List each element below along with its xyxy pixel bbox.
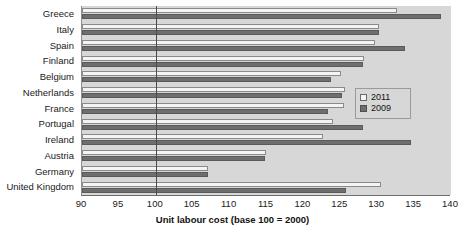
y-axis-label: Belgium	[0, 69, 78, 85]
bar-2009-greece	[82, 14, 441, 19]
bar-group	[82, 22, 451, 38]
x-axis-line	[81, 195, 450, 196]
bar-group	[82, 148, 451, 164]
bar-group	[82, 38, 451, 54]
legend-swatch-icon	[360, 94, 367, 101]
y-axis-label: Greece	[0, 6, 78, 22]
bar-2011-germany	[82, 166, 208, 171]
chart-legend: 20112009	[355, 88, 411, 119]
bar-2011-italy	[82, 24, 379, 29]
bar-2009-united-kingdom	[82, 188, 346, 193]
bar-2009-spain	[82, 46, 405, 51]
x-tick-label: 135	[405, 198, 421, 209]
x-axis-title: Unit labour cost (base 100 = 2000)	[0, 214, 465, 225]
x-tick-label: 120	[294, 198, 310, 209]
bar-2011-finland	[82, 56, 364, 61]
y-axis-label: Netherlands	[0, 85, 78, 101]
y-axis-label: Ireland	[0, 132, 78, 148]
y-axis-label: Italy	[0, 22, 78, 38]
bar-group	[82, 132, 451, 148]
x-tick-label: 140	[442, 198, 458, 209]
x-tick-label: 105	[184, 198, 200, 209]
y-axis-label: Spain	[0, 38, 78, 54]
y-axis-label: Germany	[0, 164, 78, 180]
x-tick-label: 130	[368, 198, 384, 209]
bar-2011-united-kingdom	[82, 182, 381, 187]
bar-2011-france	[82, 103, 344, 108]
y-axis-label: United Kingdom	[0, 179, 78, 195]
bar-2009-germany	[82, 172, 208, 177]
legend-item-label: 2011	[371, 92, 390, 103]
x-tick-label: 115	[258, 198, 273, 209]
bar-group	[82, 6, 451, 22]
bar-2011-greece	[82, 8, 397, 13]
bar-group	[82, 179, 451, 195]
bar-2009-belgium	[82, 77, 331, 82]
y-axis-label: Austria	[0, 148, 78, 164]
x-tick-label: 110	[221, 198, 236, 209]
bar-2009-finland	[82, 62, 363, 67]
legend-swatch-icon	[360, 105, 367, 112]
bar-2009-france	[82, 109, 328, 114]
bar-2009-ireland	[82, 140, 411, 145]
y-axis-label: Portugal	[0, 116, 78, 132]
bar-2009-italy	[82, 30, 379, 35]
x-axis-tick-labels: 9095100105110115120125130135140	[0, 198, 465, 212]
x-tick-label: 125	[331, 198, 347, 209]
bar-2011-netherlands	[82, 87, 345, 92]
legend-item-label: 2009	[371, 103, 391, 114]
unit-labour-cost-chart: GreeceItalySpainFinlandBelgiumNetherland…	[0, 0, 465, 244]
bar-group	[82, 69, 451, 85]
y-axis-label: France	[0, 101, 78, 117]
bar-group	[82, 53, 451, 69]
bar-2011-ireland	[82, 134, 323, 139]
y-axis-category-labels: GreeceItalySpainFinlandBelgiumNetherland…	[0, 6, 78, 195]
y-axis-label: Finland	[0, 53, 78, 69]
legend-item-2009[interactable]: 2009	[360, 103, 406, 114]
x-tick-label: 90	[76, 198, 87, 209]
x-tick-label: 100	[147, 198, 163, 209]
bar-2011-belgium	[82, 71, 341, 76]
bar-group	[82, 164, 451, 180]
bar-2011-portugal	[82, 119, 333, 124]
x-tick-label: 95	[113, 198, 124, 209]
bar-2009-netherlands	[82, 93, 342, 98]
bar-2009-austria	[82, 156, 265, 161]
bar-2009-portugal	[82, 125, 363, 130]
bar-group	[82, 116, 451, 132]
bar-2011-spain	[82, 40, 375, 45]
legend-item-2011[interactable]: 2011	[360, 92, 406, 103]
bar-2011-austria	[82, 150, 266, 155]
